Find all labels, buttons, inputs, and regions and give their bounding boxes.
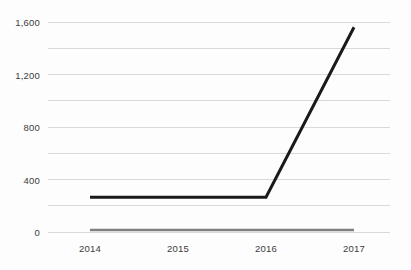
data-series-lines — [90, 27, 354, 230]
line-chart: 04008001,2001,600 2014201520162017 — [0, 0, 411, 270]
y-tick-label: 800 — [2, 122, 40, 133]
x-tick-label: 2015 — [153, 243, 203, 254]
y-tick-label: 1,200 — [2, 69, 40, 80]
chart-plot-area — [0, 0, 411, 270]
x-tick-label: 2014 — [65, 243, 115, 254]
series-line-1 — [90, 27, 354, 197]
x-tick-label: 2016 — [241, 243, 291, 254]
gridlines — [48, 22, 390, 232]
y-tick-label: 400 — [2, 174, 40, 185]
y-tick-label: 1,600 — [2, 17, 40, 28]
y-tick-label: 0 — [2, 227, 40, 238]
x-tick-label: 2017 — [329, 243, 379, 254]
